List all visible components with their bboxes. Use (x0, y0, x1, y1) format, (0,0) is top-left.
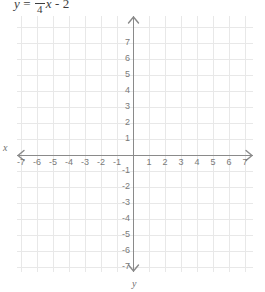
x-tick-label: 2 (157, 157, 173, 167)
x-tick-label: -5 (45, 157, 61, 167)
fraction-denominator: 4 (35, 4, 45, 16)
x-tick-label: -7 (13, 157, 29, 167)
x-tick-label: -2 (93, 157, 109, 167)
y-tick-label: -2 (114, 181, 130, 191)
y-axis-letter: y (132, 278, 136, 289)
x-axis-letter: x (3, 142, 7, 153)
x-tick-label: -6 (29, 157, 45, 167)
y-tick-label: 2 (114, 117, 130, 127)
equation-variable: x (46, 0, 52, 11)
y-tick-label: 5 (114, 69, 130, 79)
x-tick-label: 7 (237, 157, 253, 167)
x-tick-label: -4 (61, 157, 77, 167)
x-tick-label: 6 (221, 157, 237, 167)
y-tick-label: -5 (114, 229, 130, 239)
equation-equals: = (23, 0, 31, 11)
y-tick-label: -7 (114, 261, 130, 271)
equation-operator: - (55, 0, 60, 11)
y-tick-label: -4 (114, 213, 130, 223)
equation-label: y=34x-2 (14, 0, 70, 15)
graph-worksheet: y=34x-2 x y -7-6-5-4-3-2-112345677654321… (0, 0, 265, 292)
x-tick-label: 4 (189, 157, 205, 167)
x-tick-label: 1 (141, 157, 157, 167)
y-tick-label: -6 (114, 245, 130, 255)
equation-lhs: y (14, 0, 20, 11)
coordinate-plane (17, 16, 253, 272)
equation-fraction: 34 (35, 0, 45, 15)
x-tick-label: 5 (205, 157, 221, 167)
x-tick-label: -3 (77, 157, 93, 167)
y-tick-label: -3 (114, 197, 130, 207)
y-tick-label: 4 (114, 85, 130, 95)
y-tick-label: 1 (114, 133, 130, 143)
equation-constant: 2 (63, 0, 70, 11)
axes (17, 16, 253, 272)
y-tick-label: -1 (114, 165, 130, 175)
grid-lines (17, 16, 253, 272)
x-tick-label: 3 (173, 157, 189, 167)
y-tick-label: 6 (114, 53, 130, 63)
coordinate-plane-svg (17, 16, 253, 272)
y-tick-label: 7 (114, 37, 130, 47)
y-tick-label: 3 (114, 101, 130, 111)
